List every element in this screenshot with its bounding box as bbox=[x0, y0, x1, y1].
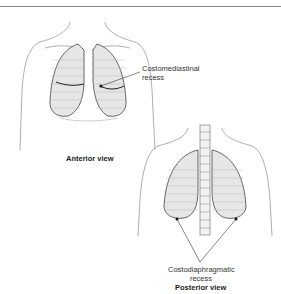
callout-line-1: Costodiaphragmatic bbox=[168, 265, 234, 274]
costomediastinal-recess-label: Costomediastinal recess bbox=[142, 64, 200, 82]
callout-line-2: recess bbox=[142, 73, 200, 82]
lungs-illustration bbox=[0, 0, 281, 294]
callout-line-2: recess bbox=[168, 274, 234, 283]
anterior-view-caption: Anterior view bbox=[66, 154, 114, 163]
posterior-view-caption: Posterior view bbox=[175, 283, 226, 292]
callout-line-1: Costomediastinal bbox=[142, 64, 200, 73]
costodiaphragmatic-recess-label: Costodiaphragmatic recess bbox=[168, 265, 234, 283]
